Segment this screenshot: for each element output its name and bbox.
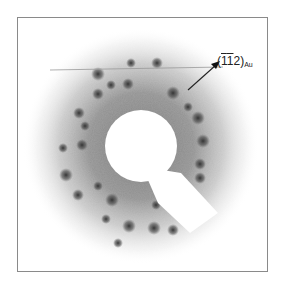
diffraction-spot [76, 139, 88, 151]
diffraction-spot [73, 107, 85, 119]
diffraction-spot [105, 193, 119, 207]
diffraction-spot [167, 224, 179, 236]
miller-index-label: (112)Au [217, 54, 253, 68]
diffraction-spot [58, 143, 68, 153]
diffraction-spot [122, 78, 134, 90]
diffraction-spot [113, 238, 123, 248]
diffraction-spot [92, 88, 104, 100]
diffraction-spot [151, 57, 163, 69]
diffraction-spot [126, 58, 136, 68]
diffraction-spot [72, 189, 84, 201]
diffraction-spot [59, 168, 73, 182]
diffraction-figure: (112)Au [17, 17, 268, 272]
diffraction-spot [191, 111, 205, 125]
diffraction-spot [194, 158, 206, 170]
diffraction-spot [101, 214, 111, 224]
diffraction-spot [194, 172, 206, 184]
diffraction-spot [196, 134, 210, 148]
diffraction-spot [93, 181, 103, 191]
diffraction-spot [122, 219, 136, 233]
diffraction-spot [147, 221, 161, 235]
diffraction-spot [166, 86, 180, 100]
diffraction-spot [80, 121, 90, 131]
diffraction-spot [183, 102, 193, 112]
diffraction-spot [106, 80, 116, 90]
